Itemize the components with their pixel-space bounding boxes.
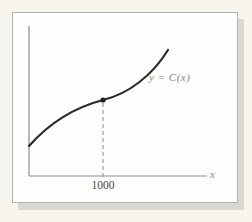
curve-label: y = C(x) xyxy=(149,71,190,84)
figure-frame: y = C(x) x 1000 xyxy=(12,12,238,203)
cost-curve xyxy=(29,50,168,146)
x-axis-label: x xyxy=(210,168,215,181)
inflection-point-dot xyxy=(100,97,105,102)
x-tick-label-1000: 1000 xyxy=(92,179,115,192)
page-background: y = C(x) x 1000 xyxy=(0,0,252,222)
plot-area xyxy=(13,13,237,202)
